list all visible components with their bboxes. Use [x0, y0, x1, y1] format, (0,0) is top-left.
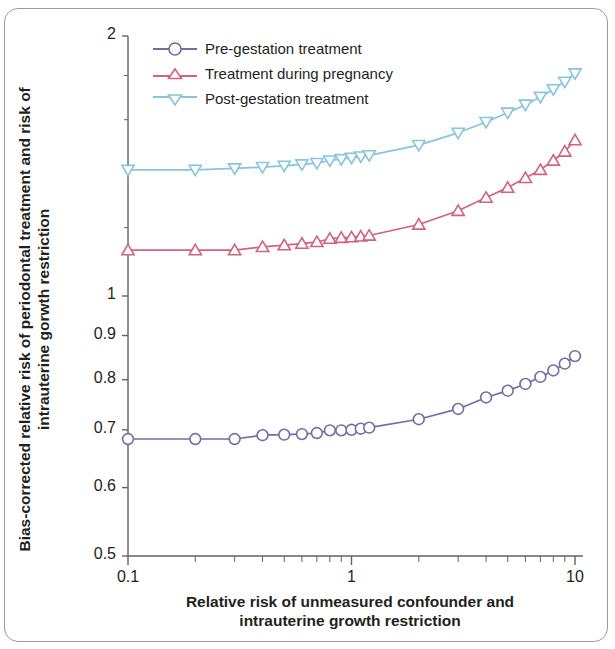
x-tick-label: 1 [322, 568, 382, 586]
data-point [547, 85, 559, 95]
data-point [570, 351, 581, 362]
data-point [257, 430, 268, 441]
legend-item-treatment-during-pregnancy[interactable]: Treatment during pregnancy [152, 61, 393, 86]
data-point [123, 434, 134, 445]
y-tick-label: 0.9 [70, 325, 116, 343]
data-point [324, 425, 335, 436]
y-tick-label: 0.8 [70, 369, 116, 387]
series-1 [123, 351, 581, 445]
chart-figure: Bias-corrected relative risk of periodon… [0, 0, 615, 649]
y-tick-label: 2 [70, 25, 116, 43]
y-tick-label: 0.7 [70, 419, 116, 437]
legend-label-treatment-during-pregnancy: Treatment during pregnancy [205, 65, 393, 82]
data-point [190, 434, 201, 445]
data-point [480, 117, 492, 127]
y-axis-title: Bias-corrected relative risk of periodon… [15, 49, 54, 589]
data-point [297, 429, 308, 440]
data-point [413, 414, 424, 425]
data-point [453, 404, 464, 415]
data-point [559, 358, 570, 369]
x-axis-title-line-1: Relative risk of unmeasured confounder a… [110, 592, 590, 611]
x-tick-label: 10 [545, 568, 605, 586]
data-point [480, 192, 492, 202]
y-tick-label: 0.6 [70, 477, 116, 495]
data-point [364, 422, 375, 433]
data-point [229, 434, 240, 445]
y-tick-label: 0.5 [70, 545, 116, 563]
x-axis-title: Relative risk of unmeasured confounder a… [110, 592, 590, 631]
legend-marker-triangle-down-icon [152, 89, 198, 109]
data-point [535, 372, 546, 383]
data-point [569, 134, 581, 144]
legend-label-pre-gestation-treatment: Pre-gestation treatment [205, 40, 362, 57]
data-point [559, 77, 571, 87]
data-point [481, 392, 492, 403]
legend-marker-triangle-up-icon [152, 64, 198, 84]
data-point [279, 429, 290, 440]
data-point [534, 164, 546, 174]
data-point [520, 379, 531, 390]
legend-item-post-gestation-treatment[interactable]: Post-gestation treatment [152, 86, 393, 111]
data-point [519, 172, 531, 182]
legend-marker-circle-icon [152, 39, 198, 59]
data-point [336, 425, 347, 436]
chart-legend: Pre-gestation treatment Treatment during… [152, 36, 393, 111]
x-tick-label: 0.1 [98, 568, 158, 586]
data-point [502, 182, 514, 192]
legend-item-pre-gestation-treatment[interactable]: Pre-gestation treatment [152, 36, 393, 61]
data-point [519, 100, 531, 110]
x-axis-title-line-2: intrauterine growth restriction [110, 611, 590, 630]
data-point [452, 205, 464, 215]
data-point [502, 108, 514, 118]
series-2 [122, 134, 581, 254]
data-point [548, 365, 559, 376]
legend-label-post-gestation-treatment: Post-gestation treatment [205, 90, 368, 107]
data-point [502, 385, 513, 396]
data-point [534, 92, 546, 102]
data-point [311, 428, 322, 439]
y-tick-label: 1 [70, 285, 116, 303]
